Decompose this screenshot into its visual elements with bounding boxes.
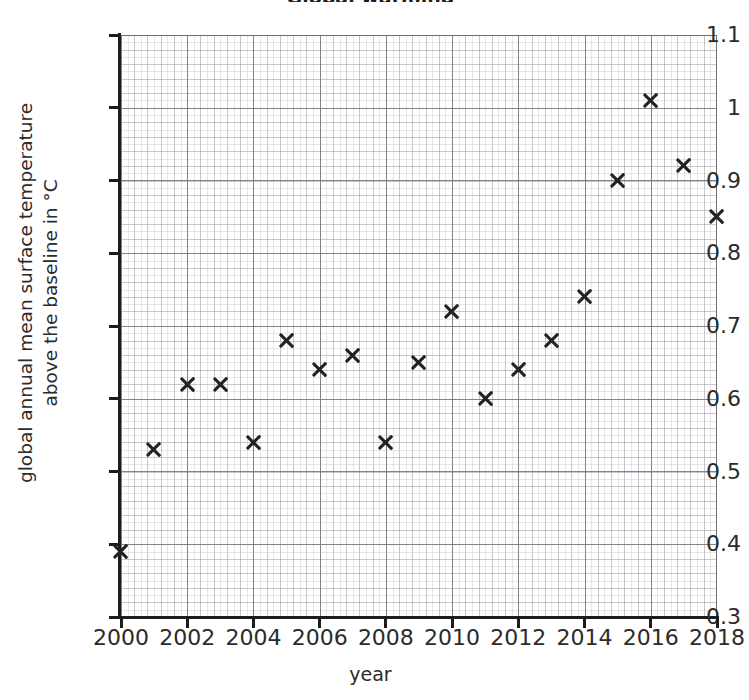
y-tick-mark	[109, 325, 121, 328]
x-tick-label: 2018	[675, 626, 749, 650]
y-axis-title-line-2: above the baseline in °C	[38, 33, 63, 553]
y-tick-mark	[109, 34, 121, 37]
x-axis-spine	[118, 616, 719, 619]
y-tick-mark	[109, 179, 121, 182]
y-tick-label: 1	[637, 97, 741, 119]
y-tick-label: 0.5	[637, 461, 741, 483]
y-tick-mark	[109, 397, 121, 400]
y-tick-label: 1.1	[637, 24, 741, 46]
y-axis-title-line-1: global annual mean surface temperature	[13, 33, 38, 553]
x-axis-title: year	[0, 663, 741, 685]
y-tick-mark	[109, 543, 121, 546]
y-tick-label: 0.7	[637, 315, 741, 337]
y-axis-title: global annual mean surface temperature a…	[13, 33, 63, 553]
y-tick-mark	[109, 106, 121, 109]
y-tick-label: 0.4	[637, 533, 741, 555]
y-tick-label: 0.8	[637, 242, 741, 264]
y-tick-label: 0.6	[637, 388, 741, 410]
y-tick-label: 0.9	[637, 170, 741, 192]
y-tick-mark	[109, 470, 121, 473]
plot-area	[121, 35, 717, 617]
y-tick-mark	[109, 252, 121, 255]
chart-title: Global warming	[0, 0, 741, 2]
